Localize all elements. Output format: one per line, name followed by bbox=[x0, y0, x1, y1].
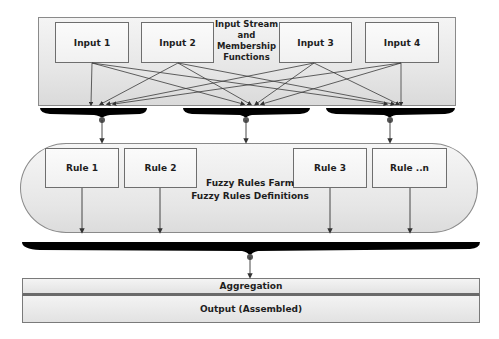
input-to-rules-connectors bbox=[99, 117, 393, 141]
input-cross-lines bbox=[91, 63, 401, 104]
connector-overlay bbox=[0, 0, 499, 339]
rules-black-bar bbox=[22, 242, 480, 256]
rule-output-arrows bbox=[82, 188, 410, 231]
input-black-bars bbox=[40, 108, 455, 118]
